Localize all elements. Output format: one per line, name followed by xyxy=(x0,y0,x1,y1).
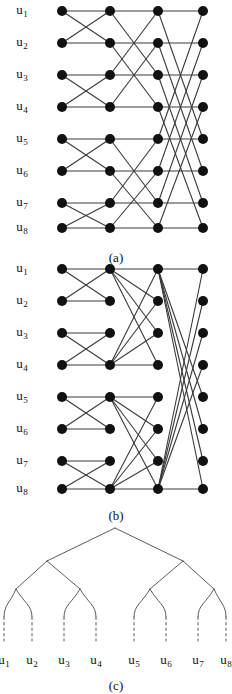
network-node xyxy=(153,134,163,144)
network-node xyxy=(198,102,208,112)
network-node xyxy=(198,166,208,176)
network-node xyxy=(105,223,115,233)
network-node xyxy=(198,296,208,306)
network-node xyxy=(198,134,208,144)
network-node xyxy=(198,360,208,370)
network-node xyxy=(105,6,115,16)
network-node xyxy=(57,70,67,80)
row-label-u5: u5 xyxy=(16,130,28,147)
row-label-u4: u4 xyxy=(16,356,28,373)
network-node xyxy=(153,328,163,338)
network-node xyxy=(57,264,67,274)
row-label-u3: u3 xyxy=(16,324,28,341)
row-label-u7: u7 xyxy=(16,194,28,211)
tree-leaf-label-u2: u2 xyxy=(26,652,38,669)
row-label-u6: u6 xyxy=(16,162,28,179)
network-node xyxy=(153,223,163,233)
network-node xyxy=(198,392,208,402)
network-node xyxy=(57,296,67,306)
network-node xyxy=(105,70,115,80)
network-node xyxy=(153,38,163,48)
network-node xyxy=(198,424,208,434)
network-node xyxy=(153,392,163,402)
network-node xyxy=(57,456,67,466)
panel-caption-c: (c) xyxy=(109,678,123,694)
network-node xyxy=(57,328,67,338)
network-node xyxy=(153,296,163,306)
network-node xyxy=(153,70,163,80)
tree-leaf-label-u6: u6 xyxy=(160,652,172,669)
network-node xyxy=(57,102,67,112)
network-node xyxy=(198,328,208,338)
row-label-u2: u2 xyxy=(16,34,28,51)
network-node xyxy=(153,424,163,434)
row-label-u3: u3 xyxy=(16,66,28,83)
network-node xyxy=(57,360,67,370)
panel-caption-b: (b) xyxy=(108,508,123,524)
network-node xyxy=(153,484,163,494)
tree-leaf-label-u4: u4 xyxy=(90,652,102,669)
network-node xyxy=(105,484,115,494)
panel-caption-a: (a) xyxy=(109,250,123,266)
row-label-u1: u1 xyxy=(16,2,28,19)
row-label-u8: u8 xyxy=(16,219,28,236)
network-node xyxy=(105,424,115,434)
tree-leaf-label-u8: u8 xyxy=(220,652,232,669)
network-node xyxy=(153,166,163,176)
row-label-u2: u2 xyxy=(16,292,28,309)
network-node xyxy=(105,360,115,370)
network-node xyxy=(198,70,208,80)
tree-leaf-label-u7: u7 xyxy=(192,652,204,669)
network-node xyxy=(57,484,67,494)
network-node xyxy=(105,198,115,208)
network-node xyxy=(198,484,208,494)
row-label-u5: u5 xyxy=(16,388,28,405)
row-label-u8: u8 xyxy=(16,480,28,497)
network-node xyxy=(57,392,67,402)
network-node xyxy=(198,264,208,274)
network-node xyxy=(57,134,67,144)
tree-leaf-label-u3: u3 xyxy=(58,652,70,669)
network-node xyxy=(57,6,67,16)
network-node xyxy=(105,102,115,112)
row-label-u7: u7 xyxy=(16,452,28,469)
network-node xyxy=(153,102,163,112)
network-node xyxy=(198,38,208,48)
network-node xyxy=(153,264,163,274)
network-node xyxy=(105,296,115,306)
network-node xyxy=(198,6,208,16)
network-node xyxy=(105,38,115,48)
network-node xyxy=(153,456,163,466)
network-node xyxy=(57,166,67,176)
network-node xyxy=(57,424,67,434)
row-label-u1: u1 xyxy=(16,260,28,277)
network-node xyxy=(198,456,208,466)
network-node xyxy=(105,328,115,338)
network-node xyxy=(105,166,115,176)
network-node xyxy=(105,392,115,402)
network-node xyxy=(57,38,67,48)
network-node xyxy=(153,360,163,370)
tree-leaf-label-u1: u1 xyxy=(0,652,10,669)
network-node xyxy=(105,134,115,144)
network-node xyxy=(153,198,163,208)
network-node xyxy=(57,198,67,208)
network-node xyxy=(105,456,115,466)
tree-leaf-label-u5: u5 xyxy=(128,652,140,669)
network-node xyxy=(198,223,208,233)
network-node xyxy=(57,223,67,233)
network-node xyxy=(153,6,163,16)
network-node xyxy=(198,198,208,208)
row-label-u6: u6 xyxy=(16,420,28,437)
row-label-u4: u4 xyxy=(16,98,28,115)
